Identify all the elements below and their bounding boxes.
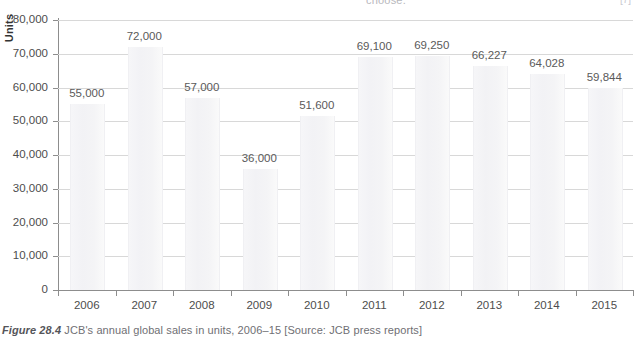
figure-caption-text: JCB's annual global sales in units, 2006… — [64, 324, 422, 336]
y-tick-label-20000: 20,000 — [0, 216, 48, 228]
bar-2015 — [588, 88, 623, 290]
figure-bar-chart: Units 80,00070,00060,00050,00040,00030,0… — [0, 0, 639, 342]
bar-2009 — [243, 169, 278, 291]
bar-2012 — [415, 56, 450, 290]
bar-2014 — [530, 74, 565, 290]
y-tick-label-50000: 50,000 — [0, 114, 48, 126]
x-tick-label-2011: 2011 — [345, 299, 403, 311]
x-tick-label-2009: 2009 — [230, 299, 288, 311]
y-tick-label-60000: 60,000 — [0, 81, 48, 93]
bar-value-label-2010: 51,600 — [282, 99, 352, 111]
bar-value-label-2007: 72,000 — [109, 30, 179, 42]
figure-caption: Figure 28.4 JCB's annual global sales in… — [2, 324, 622, 336]
x-tick-label-2013: 2013 — [460, 299, 518, 311]
y-tick-label-70000: 70,000 — [0, 47, 48, 59]
bar-value-label-2015: 59,844 — [569, 71, 639, 83]
x-tick-label-2014: 2014 — [518, 299, 576, 311]
x-tick-label-2015: 2015 — [575, 299, 633, 311]
y-tick-label-40000: 40,000 — [0, 148, 48, 160]
x-tick-label-2010: 2010 — [288, 299, 346, 311]
bar-2013 — [473, 66, 508, 290]
gridline-80000 — [58, 20, 633, 21]
x-tick-label-2012: 2012 — [403, 299, 461, 311]
bar-2011 — [358, 57, 393, 290]
bar-value-label-2006: 55,000 — [52, 87, 122, 99]
gridline-0 — [58, 290, 633, 291]
x-tick-label-2008: 2008 — [173, 299, 231, 311]
y-tick-label-10000: 10,000 — [0, 249, 48, 261]
x-tick-label-2006: 2006 — [58, 299, 116, 311]
y-tick-label-80000: 80,000 — [0, 13, 48, 25]
x-tick-mark-10 — [633, 290, 634, 296]
bar-value-label-2014: 64,028 — [512, 57, 582, 69]
x-tick-label-2007: 2007 — [115, 299, 173, 311]
bar-2006 — [70, 104, 105, 290]
bar-2010 — [300, 116, 335, 290]
figure-caption-label: Figure 28.4 — [2, 324, 61, 336]
bar-value-label-2009: 36,000 — [224, 152, 294, 164]
bar-2007 — [128, 47, 163, 290]
y-tick-label-30000: 30,000 — [0, 182, 48, 194]
y-tick-label-0: 0 — [0, 283, 48, 295]
bar-value-label-2008: 57,000 — [167, 81, 237, 93]
bar-2008 — [185, 98, 220, 290]
